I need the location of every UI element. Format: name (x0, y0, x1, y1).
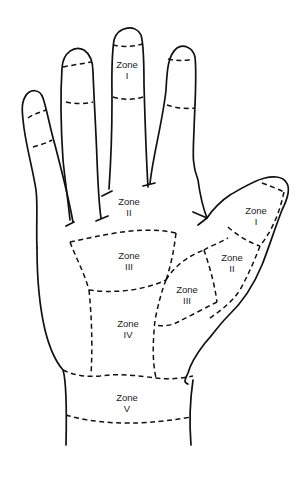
index-finger-dip-line (168, 59, 193, 61)
zone-title: Zone (176, 284, 198, 295)
zone-title: Zone (118, 250, 140, 261)
zone-3-left-boundary (70, 242, 89, 290)
zone-label-palm-2: Zone II (118, 196, 140, 218)
zone-numeral: II (118, 207, 140, 218)
zone-numeral: II (221, 263, 243, 274)
zone-title: Zone (245, 205, 267, 216)
zone-label-palm-3: Zone III (118, 250, 140, 272)
little-finger-pip-line (33, 140, 52, 147)
hand-zone-diagram: Zone I Zone II Zone III Zone IV Zone V Z… (0, 0, 308, 480)
zone-title: Zone (118, 196, 140, 207)
ring-finger-pip-line (66, 102, 93, 104)
zone-title: Zone (221, 252, 243, 263)
hand-outline-drawing (0, 0, 308, 480)
index-finger-outline (150, 46, 207, 218)
zone-numeral: IV (117, 329, 139, 340)
zone-4-left-boundary (89, 290, 92, 375)
zone-title: Zone (116, 59, 138, 70)
zone-numeral: III (176, 295, 198, 306)
zone-label-middle-finger: Zone I (116, 59, 138, 81)
zone-label-thumb-3: Zone III (176, 284, 198, 306)
ring-finger-dip-line (63, 62, 91, 67)
little-finger-outline (22, 91, 73, 248)
zone-title: Zone (116, 392, 138, 403)
middle-finger-outline (102, 28, 155, 196)
zone-numeral: V (116, 403, 138, 414)
zone-3-4-boundary (89, 280, 166, 291)
middle-finger-pip-line (113, 97, 143, 99)
zone-5-lower-boundary (66, 415, 191, 423)
zone-numeral: I (116, 70, 138, 81)
zone-numeral: III (118, 261, 140, 272)
hand-outline (22, 28, 288, 445)
ring-finger-outline (61, 48, 108, 226)
ulnar-border-outline (37, 248, 66, 445)
zone-4-5-boundary (63, 370, 193, 379)
zone-boundaries (28, 44, 284, 423)
zone-title: Zone (117, 318, 139, 329)
zone-numeral: I (245, 216, 267, 227)
zone-2-3-boundary (70, 230, 176, 242)
zone-4-right-boundary (153, 280, 166, 378)
middle-finger-dip-line (113, 44, 143, 46)
thumb-web-boundary (204, 238, 228, 250)
thumb-zone-2-3-boundary (204, 250, 217, 302)
little-finger-dip-line (28, 110, 46, 118)
index-finger-pip-line (167, 105, 195, 108)
zone-label-palm-4: Zone IV (117, 318, 139, 340)
zone-label-wrist-5: Zone V (116, 392, 138, 414)
thenar-upper-boundary (166, 250, 204, 280)
thumb-tip-line (262, 183, 284, 192)
thumb-zone-1-2-boundary (228, 227, 260, 246)
zone-label-thumb-1: Zone I (245, 205, 267, 227)
zone-label-thumb-2: Zone II (221, 252, 243, 274)
